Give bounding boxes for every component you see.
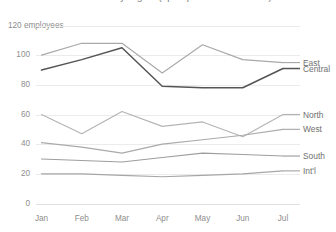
series-label-south: South [303,152,325,160]
series-label-central: Central [303,65,330,73]
series-line-south [42,153,284,162]
plot-area [0,0,336,232]
series-line-central [42,48,284,88]
series-label-north: North [303,111,323,119]
series-line-north [42,112,284,137]
series-label-west: West [303,125,322,133]
series-line-east [42,43,284,73]
series-line-west [42,129,284,153]
series-line-intl [42,171,284,177]
series-label-intl: Int'l [303,167,316,175]
chart-container: Headcount by region (open positions excl… [0,0,336,232]
